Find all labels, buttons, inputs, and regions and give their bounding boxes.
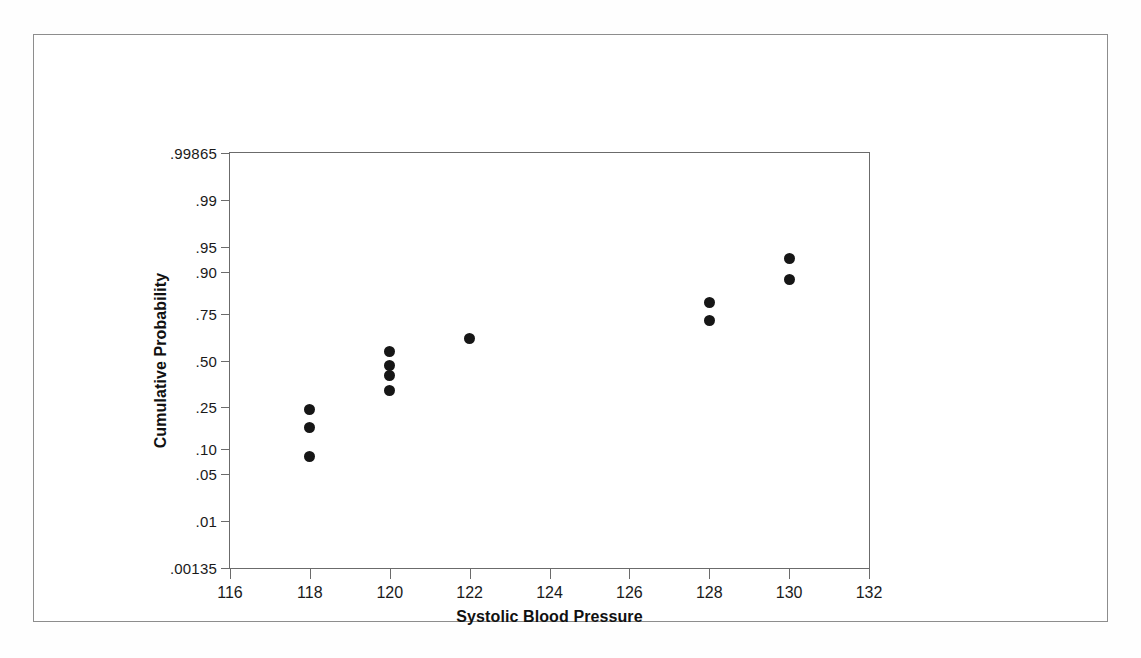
data-point [304,422,315,433]
y-axis-tick-label: .75 [196,305,217,322]
x-axis-tick [629,568,630,579]
x-axis-tick [230,568,231,579]
y-axis-tick [221,449,230,450]
data-point [784,253,795,264]
x-axis-tick-label: 132 [856,584,883,602]
data-points-layer [230,153,869,568]
y-axis-tick-label: .99 [196,191,217,208]
plot-frame: .99865.99.95.90.75.50.25.10.05.01.00135 … [229,152,870,569]
x-axis-tick-label: 122 [456,584,483,602]
y-axis-tick-label: .50 [196,352,217,369]
x-axis-tick [550,568,551,579]
x-axis-tick-label: 124 [536,584,563,602]
x-axis-tick-label: 116 [217,584,243,602]
x-axis-tick [470,568,471,579]
scanned-page: Cumulative Probability Systolic Blood Pr… [0,0,1141,658]
data-point [384,370,395,381]
x-axis-tick [869,568,870,579]
data-point [464,333,475,344]
y-axis-tick-label: .00135 [170,560,217,577]
y-axis-tick [221,200,230,201]
y-axis-tick-label: .99865 [170,145,217,162]
y-axis-tick [221,568,230,569]
y-axis-tick [221,247,230,248]
data-point [704,315,715,326]
x-axis-tick-label: 130 [776,584,803,602]
x-axis-tick [709,568,710,579]
y-axis-tick [221,521,230,522]
y-axis-tick [221,153,230,154]
x-axis-title: Systolic Blood Pressure [229,608,870,626]
y-axis-tick-label: .95 [196,238,217,255]
data-point [704,297,715,308]
y-axis-tick [221,361,230,362]
x-axis-tick [310,568,311,579]
y-axis-tick [221,474,230,475]
data-point [304,404,315,415]
x-axis-tick-label: 126 [616,584,643,602]
y-axis-title: Cumulative Probability [152,152,174,569]
x-axis-tick-label: 128 [696,584,723,602]
y-axis-tick-label: .90 [196,263,217,280]
y-axis-tick [221,314,230,315]
data-point [384,385,395,396]
x-axis-tick-label: 118 [297,584,323,602]
y-axis-tick [221,272,230,273]
x-axis-tick [789,568,790,579]
data-point [384,360,395,371]
page-border: Cumulative Probability Systolic Blood Pr… [33,34,1108,622]
y-axis-tick-label: .25 [196,399,217,416]
x-axis-tick [390,568,391,579]
data-point [784,274,795,285]
y-axis-tick-label: .05 [196,466,217,483]
y-axis-tick-label: .01 [196,513,217,530]
y-axis-tick-label: .10 [196,441,217,458]
x-axis-tick-label: 120 [376,584,403,602]
data-point [304,451,315,462]
data-point [384,346,395,357]
y-axis-tick [221,407,230,408]
